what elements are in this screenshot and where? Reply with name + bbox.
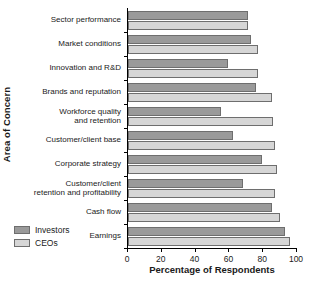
bar-investors-3	[128, 83, 256, 92]
bar-ceos-9	[128, 237, 290, 246]
category-label-8: Cash flow	[15, 207, 121, 217]
bar-ceos-6	[128, 165, 277, 174]
x-tick-label-60: 60	[213, 254, 243, 264]
x-tick-80	[262, 248, 263, 252]
category-label-6: Corporate strategy	[15, 159, 121, 169]
bar-investors-8	[128, 203, 272, 212]
x-tick-40	[195, 248, 196, 252]
bar-ceos-7	[128, 189, 275, 198]
bar-ceos-8	[128, 213, 280, 222]
chart-legend: InvestorsCEOs	[14, 224, 94, 250]
bar-investors-9	[128, 227, 285, 236]
category-label-3: Brands and reputation	[15, 87, 121, 97]
x-axis-title: Percentage of Respondents	[127, 264, 297, 275]
category-label-2: Innovation and R&D	[15, 63, 121, 73]
category-label-line: Sector performance	[15, 15, 121, 25]
y-tick-8	[124, 224, 127, 225]
category-label-line: Workforce quality	[15, 107, 121, 117]
category-label-line: Customer/client	[15, 179, 121, 189]
y-tick-5	[124, 152, 127, 153]
legend-label-investors: Investors	[35, 225, 70, 235]
y-tick-1	[124, 56, 127, 57]
x-tick-label-20: 20	[146, 254, 176, 264]
y-tick-7	[124, 200, 127, 201]
bar-investors-0	[128, 11, 248, 20]
category-label-line: Corporate strategy	[15, 159, 121, 169]
category-axis-labels: Sector performanceMarket conditionsInnov…	[16, 8, 124, 248]
bar-chart: Area of Concern Sector performanceMarket…	[0, 0, 319, 290]
y-axis-title: Area of Concern	[0, 0, 14, 248]
category-label-5: Customer/client base	[15, 135, 121, 145]
bar-investors-7	[128, 179, 243, 188]
x-axis-line	[127, 248, 297, 249]
bar-ceos-0	[128, 21, 248, 30]
category-label-1: Market conditions	[15, 39, 121, 49]
bar-ceos-5	[128, 141, 275, 150]
category-label-line: Market conditions	[15, 39, 121, 49]
x-tick-label-0: 0	[112, 254, 142, 264]
bar-ceos-3	[128, 93, 272, 102]
category-label-line: Cash flow	[15, 207, 121, 217]
x-tick-100	[296, 248, 297, 252]
bar-investors-1	[128, 35, 251, 44]
legend-item-ceos: CEOs	[14, 237, 94, 249]
category-label-0: Sector performance	[15, 15, 121, 25]
bar-investors-5	[128, 131, 233, 140]
bar-ceos-2	[128, 69, 258, 78]
y-tick-3	[124, 104, 127, 105]
legend-swatch-investors	[14, 226, 30, 234]
plot-area: 020406080100	[127, 8, 296, 248]
category-label-7: Customer/clientretention and profitabili…	[15, 179, 121, 198]
x-tick-label-40: 40	[180, 254, 210, 264]
bar-investors-6	[128, 155, 262, 164]
y-tick-4	[124, 128, 127, 129]
category-label-line: and retention	[15, 116, 121, 126]
category-label-line: Customer/client base	[15, 135, 121, 145]
bar-investors-2	[128, 59, 228, 68]
y-tick-0	[124, 32, 127, 33]
bar-ceos-1	[128, 45, 258, 54]
y-axis-title-text: Area of Concern	[2, 86, 13, 161]
category-label-line: retention and profitability	[15, 188, 121, 198]
y-tick-2	[124, 80, 127, 81]
x-tick-60	[228, 248, 229, 252]
legend-swatch-ceos	[14, 239, 30, 247]
category-label-4: Workforce qualityand retention	[15, 107, 121, 126]
y-tick-6	[124, 176, 127, 177]
x-tick-label-80: 80	[247, 254, 277, 264]
legend-item-investors: Investors	[14, 224, 94, 236]
x-tick-label-100: 100	[281, 254, 311, 264]
bar-investors-4	[128, 107, 221, 116]
legend-label-ceos: CEOs	[35, 238, 58, 248]
bar-ceos-4	[128, 117, 273, 126]
category-label-line: Brands and reputation	[15, 87, 121, 97]
category-label-line: Innovation and R&D	[15, 63, 121, 73]
x-tick-0	[127, 248, 128, 252]
x-tick-20	[161, 248, 162, 252]
